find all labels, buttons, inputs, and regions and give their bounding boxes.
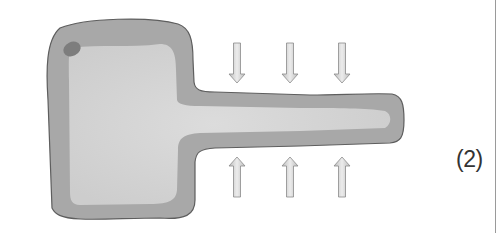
figure-label: (2) xyxy=(456,146,483,173)
arrow-down-icon xyxy=(229,43,245,83)
arrow-up-icon xyxy=(282,157,298,197)
compression-arrows-bottom xyxy=(229,157,350,197)
arrow-down-icon xyxy=(282,43,298,83)
arrow-up-icon xyxy=(229,157,245,197)
arrow-down-icon xyxy=(334,43,350,83)
cell-body xyxy=(47,19,404,219)
cell-compression-diagram: (2) xyxy=(0,0,497,233)
compression-arrows-top xyxy=(229,43,350,83)
page-edge-divider xyxy=(495,0,496,233)
arrow-up-icon xyxy=(334,157,350,197)
